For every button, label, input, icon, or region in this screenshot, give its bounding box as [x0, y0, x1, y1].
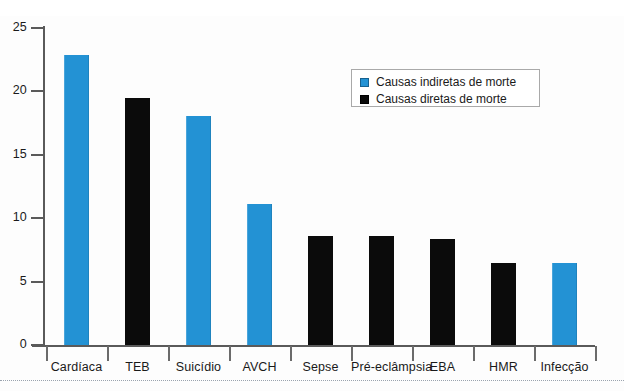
y-axis-tick: [31, 154, 43, 156]
x-axis-tick: [412, 346, 414, 361]
bar-teb: [125, 98, 150, 345]
legend-item-diretas: Causas diretas de morte: [360, 92, 539, 107]
x-axis-tick: [229, 346, 231, 361]
y-axis-tick: [31, 217, 43, 219]
y-axis-tick-label: 25: [1, 20, 27, 34]
legend-swatch-blue-icon: [360, 78, 369, 87]
page-bottom-dotted-rule: [0, 380, 624, 381]
x-axis-label: Cardíaca: [46, 360, 107, 374]
y-axis-tick-label: 5: [1, 274, 27, 288]
y-axis-tick: [31, 90, 43, 92]
x-axis-tick: [351, 346, 353, 361]
bar-infec-o: [552, 263, 577, 345]
bar-pr-ecl-mpsia: [369, 236, 394, 345]
y-axis-tick: [31, 27, 43, 29]
x-axis-label: Suicídio: [168, 360, 229, 374]
x-axis-label: HMR: [473, 360, 534, 374]
bar-avch: [247, 204, 272, 345]
bar-card-aca: [64, 55, 89, 345]
y-axis-tick-label: 0: [1, 337, 27, 351]
legend-label-diretas: Causas diretas de morte: [376, 93, 507, 106]
bar-sepse: [308, 236, 333, 345]
x-axis-tick: [534, 346, 536, 361]
x-axis-label: Pré-eclâmpsia: [351, 360, 412, 374]
legend-label-indiretas: Causas indiretas de morte: [376, 76, 516, 89]
x-axis-line: [32, 345, 595, 347]
x-axis-label: TEB: [107, 360, 168, 374]
x-axis-label: Infecção: [534, 360, 595, 374]
x-axis-tick: [168, 346, 170, 361]
bar-hmr: [491, 263, 516, 345]
x-axis-label: AVCH: [229, 360, 290, 374]
y-axis-tick-label: 15: [1, 147, 27, 161]
x-axis-tick: [595, 346, 597, 361]
legend-item-indiretas: Causas indiretas de morte: [360, 75, 539, 90]
x-axis-label: EBA: [412, 360, 473, 374]
x-axis-tick: [46, 346, 48, 361]
x-axis-tick: [107, 346, 109, 361]
bar-chart: 0510152025 CardíacaTEBSuicídioAVCHSepseP…: [0, 0, 624, 391]
chart-legend: Causas indiretas de morte Causas diretas…: [351, 69, 540, 107]
legend-swatch-black-icon: [360, 95, 369, 104]
scan-top-margin: [0, 0, 624, 16]
x-axis-tick: [290, 346, 292, 361]
y-axis-tick: [31, 281, 43, 283]
bar-eba: [430, 239, 455, 346]
x-axis-label: Sepse: [290, 360, 351, 374]
bar-suic-dio: [186, 116, 211, 346]
y-axis-tick-label: 20: [1, 83, 27, 97]
x-axis-tick: [473, 346, 475, 361]
y-axis-tick-label: 10: [1, 210, 27, 224]
